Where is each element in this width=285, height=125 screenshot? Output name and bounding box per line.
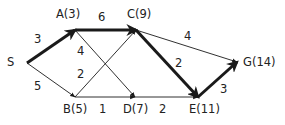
edge-weight-a-d: 4 — [77, 46, 84, 58]
edge-weight-s-b: 5 — [34, 81, 41, 93]
node-label-a: A(3) — [56, 9, 80, 21]
edge-e-g — [198, 62, 237, 97]
edge-weight-s-a: 3 — [34, 34, 41, 46]
network-diagram: 3564212423SA(3)C(9)B(5)D(7)E(11)G(14) — [0, 0, 285, 125]
edge-weight-c-e: 2 — [175, 58, 182, 70]
edge-weight-b-d: 1 — [99, 104, 106, 116]
node-label-e: E(11) — [189, 104, 220, 116]
node-label-d: D(7) — [123, 104, 148, 116]
edge-weight-d-e: 2 — [159, 104, 166, 116]
node-label-b: B(5) — [63, 104, 87, 116]
node-label-s: S — [7, 57, 14, 69]
edge-weight-b-c: 2 — [77, 69, 84, 81]
edge-weight-a-c: 6 — [98, 12, 105, 24]
node-label-g: G(14) — [243, 57, 276, 69]
edge-weight-e-g: 3 — [220, 84, 227, 96]
edge-weight-c-g: 4 — [184, 31, 191, 43]
node-label-c: C(9) — [127, 9, 151, 21]
